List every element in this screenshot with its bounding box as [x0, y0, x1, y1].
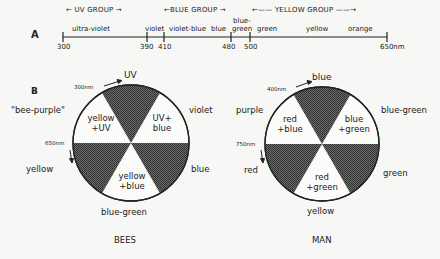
man-seg-upper-right-line1: blue	[334, 114, 374, 124]
bees-seg-upper-right-line1: UV+	[147, 113, 177, 123]
man-seg-bottom: red +green	[301, 172, 343, 192]
man-top-nm: 400nm	[267, 86, 286, 92]
panel-b-label: B	[31, 86, 38, 96]
bees-seg-upper-left-line1: yellow	[82, 113, 120, 123]
man-lower-left-label: red	[244, 165, 258, 175]
man-seg-upper-left-line2: +blue	[272, 124, 308, 134]
bees-left-nm: 650nm	[45, 140, 64, 146]
man-upper-left-label: purple	[236, 105, 263, 115]
bees-top-nm: 300nm	[74, 84, 93, 90]
man-left-nm: 750nm	[236, 141, 255, 147]
bees-seg-upper-right-line2: blue	[147, 123, 177, 133]
man-top-label: blue	[312, 72, 331, 82]
man-seg-bottom-line2: +green	[301, 182, 343, 192]
bees-seg-upper-right: UV+ blue	[147, 113, 177, 133]
bees-seg-upper-left: yellow +UV	[82, 113, 120, 133]
bees-lower-left-label: yellow	[26, 164, 53, 174]
bees-seg-bottom: yellow +blue	[113, 171, 151, 191]
diagram-graphics	[0, 0, 440, 259]
bees-seg-bottom-line2: +blue	[113, 181, 151, 191]
bees-seg-upper-left-line2: +UV	[82, 123, 120, 133]
man-bottom-label: yellow	[307, 206, 334, 216]
man-seg-bottom-line1: red	[301, 172, 343, 182]
bees-bottom-label: blue-green	[101, 207, 147, 217]
bees-top-label: UV	[124, 70, 137, 80]
bees-title: BEES	[114, 235, 136, 245]
man-seg-upper-right-line2: +green	[334, 124, 374, 134]
bees-seg-bottom-line1: yellow	[113, 171, 151, 181]
man-seg-upper-left-line1: red	[272, 114, 308, 124]
bees-upper-left-label: "bee-purple"	[11, 105, 65, 115]
spectrum-axis	[63, 32, 387, 42]
man-title: MAN	[312, 235, 332, 245]
man-seg-upper-right: blue +green	[334, 114, 374, 134]
bees-upper-right-label: violet	[189, 105, 213, 115]
man-lower-right-label: green	[383, 168, 408, 178]
bees-lower-right-label: blue	[191, 164, 209, 174]
man-seg-upper-left: red +blue	[272, 114, 308, 134]
man-upper-right-label: blue-green	[381, 105, 427, 115]
